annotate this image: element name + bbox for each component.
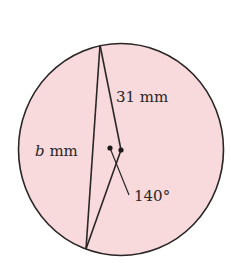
label-b-variable: b xyxy=(35,142,45,160)
label-31mm: 31 mm xyxy=(116,88,168,106)
label-b-unit: mm xyxy=(45,142,78,160)
label-angle-140: 140° xyxy=(134,187,170,205)
center-dot xyxy=(107,145,112,150)
label-b-mm: b mm xyxy=(35,142,78,160)
vertex-dot xyxy=(118,147,123,152)
circle-diagram: 31 mm b mm 140° xyxy=(0,0,231,274)
